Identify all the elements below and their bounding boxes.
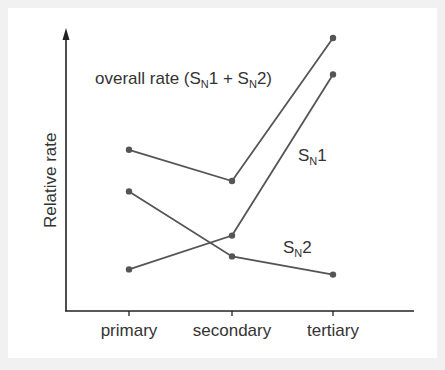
x-tick-label-secondary: secondary bbox=[193, 321, 272, 340]
data-point-marker bbox=[330, 71, 336, 77]
y-axis-arrow-icon bbox=[63, 28, 70, 40]
sn1-label: SN1 bbox=[298, 146, 327, 167]
data-point-marker bbox=[330, 271, 336, 277]
data-point-marker bbox=[229, 178, 235, 184]
x-tick-label-tertiary: tertiary bbox=[307, 321, 359, 340]
overall-rate-label: overall rate (SN1 + SN2) bbox=[95, 69, 272, 90]
sn2-label: SN2 bbox=[283, 238, 312, 259]
x-tick-label-primary: primary bbox=[101, 321, 158, 340]
data-point-marker bbox=[126, 188, 132, 194]
data-point-marker bbox=[126, 147, 132, 153]
data-point-marker bbox=[330, 35, 336, 41]
data-point-marker bbox=[126, 266, 132, 272]
y-axis-label: Relative rate bbox=[41, 133, 60, 228]
data-point-marker bbox=[229, 232, 235, 238]
chart: Relative rate primary secondary tertiary… bbox=[0, 0, 445, 370]
data-point-marker bbox=[229, 253, 235, 259]
